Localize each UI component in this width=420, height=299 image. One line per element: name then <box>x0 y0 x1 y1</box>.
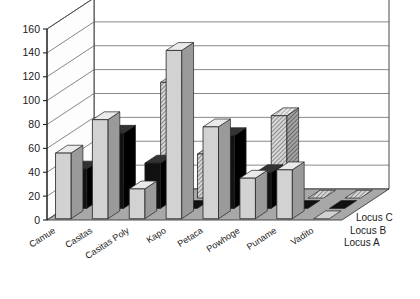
y-axis-tick-label: 0 <box>34 214 40 226</box>
y-axis-tick-label: 140 <box>22 46 40 58</box>
bar <box>240 170 267 218</box>
legend-label: Locus C <box>356 212 393 223</box>
bar <box>203 119 230 219</box>
legend-label: Locus A <box>344 237 380 248</box>
bar-chart-3d: 160140120100806040200 CamueCasitasCasita… <box>0 0 420 299</box>
y-axis-tick-label: 160 <box>22 23 40 35</box>
y-axis-tick-label: 40 <box>28 166 40 178</box>
y-axis-tick-label: 20 <box>28 190 40 202</box>
bar <box>92 112 119 219</box>
y-axis-tick-label: 120 <box>22 70 40 82</box>
bar <box>56 145 83 219</box>
bar <box>129 181 156 219</box>
chart-canvas: 160140120100806040200 CamueCasitasCasita… <box>0 0 420 299</box>
y-axis-tick-label: 80 <box>28 118 40 130</box>
bar <box>166 43 193 219</box>
y-axis-tick-label: 100 <box>22 94 40 106</box>
y-axis-tick-label: 60 <box>28 142 40 154</box>
legend-label: Locus B <box>350 225 386 236</box>
bar <box>277 162 304 219</box>
